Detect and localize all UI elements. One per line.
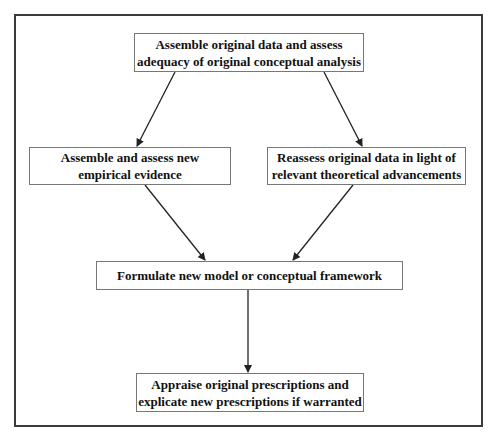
- node-line: adequacy of original conceptual analysis: [137, 53, 361, 70]
- node-assemble-new-evidence: Assemble and assess new empirical eviden…: [29, 147, 231, 185]
- node-line: Assemble original data and assess: [137, 36, 361, 53]
- arrow-n1-to-n2: [137, 72, 175, 146]
- node-reassess-original-data: Reassess original data in light of relev…: [267, 147, 466, 185]
- node-line: empirical evidence: [61, 166, 199, 183]
- node-line: Reassess original data in light of: [272, 149, 461, 166]
- arrow-n1-to-n3: [324, 72, 362, 146]
- node-line: explicate new prescriptions if warranted: [138, 393, 362, 410]
- node-appraise-prescriptions: Appraise original prescriptions and expl…: [136, 373, 364, 412]
- node-line: Assemble and assess new: [61, 149, 199, 166]
- node-line: Formulate new model or conceptual framew…: [117, 267, 382, 284]
- node-line: relevant theoretical advancements: [272, 166, 461, 183]
- node-line: Appraise original prescriptions and: [138, 376, 362, 393]
- arrow-n3-to-n4: [293, 185, 353, 260]
- arrow-n2-to-n4: [145, 185, 205, 260]
- node-assemble-original-data: Assemble original data and assess adequa…: [134, 33, 364, 72]
- node-formulate-new-model: Formulate new model or conceptual framew…: [96, 261, 403, 290]
